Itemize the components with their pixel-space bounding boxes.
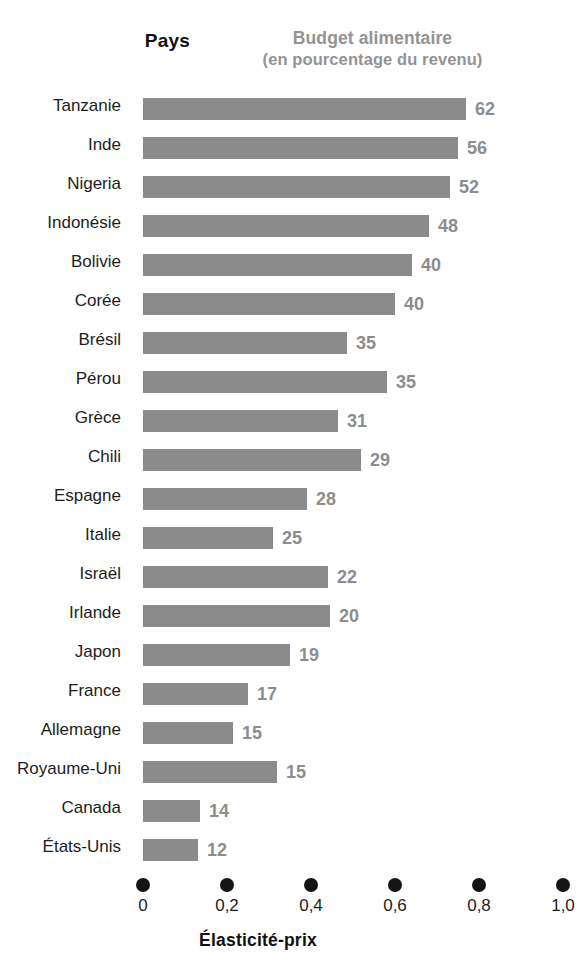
bar-value-label: 15 [277,761,306,783]
bar-value-label: 19 [290,644,319,666]
bar-track: 20 [143,605,563,627]
column-header-pays: Pays [20,30,190,52]
bar-row: Italie25 [0,522,588,561]
bar-value-label: 20 [330,605,359,627]
column-header-budget: Budget alimentaire (en pourcentage du re… [200,28,545,70]
bar-row: Irlande20 [0,600,588,639]
bar [143,644,290,666]
country-label: Grèce [0,405,132,431]
bar-row: Canada14 [0,795,588,834]
bar [143,293,395,315]
country-label: Indonésie [0,210,132,236]
axis-tick-label: 0,8 [453,896,505,916]
country-label: Nigeria [0,171,132,197]
column-header-budget-line1: Budget alimentaire [293,28,452,48]
chart-header: Pays Budget alimentaire (en pourcentage … [0,24,588,86]
bar-track: 29 [143,449,563,471]
column-header-budget-line2: (en pourcentage du revenu) [200,49,545,70]
bar-value-label: 15 [233,722,262,744]
bar-row: Espagne28 [0,483,588,522]
bar-row: États-Unis12 [0,834,588,873]
bar-track: 35 [143,371,563,393]
bar-track: 48 [143,215,563,237]
bar-track: 62 [143,98,563,120]
bar-row: Corée40 [0,288,588,327]
bar-track: 12 [143,839,563,861]
bar-row: Brésil35 [0,327,588,366]
bar-track: 56 [143,137,563,159]
bar [143,488,307,510]
axis-tick-dot-icon [388,878,402,892]
bar-track: 28 [143,488,563,510]
bar-value-label: 25 [273,527,302,549]
bar-value-label: 28 [307,488,336,510]
bar-track: 31 [143,410,563,432]
bar-value-label: 29 [361,449,390,471]
bar-value-label: 14 [200,800,229,822]
country-label: Brésil [0,327,132,353]
bar-value-label: 31 [338,410,367,432]
bar-row: Allemagne15 [0,717,588,756]
bar-value-label: 35 [347,332,376,354]
country-label: Bolivie [0,249,132,275]
country-label: Chili [0,444,132,470]
bar [143,332,347,354]
bar [143,683,248,705]
bar [143,605,330,627]
x-axis: 00,20,40,60,81,0 Élasticité-prix [0,878,588,968]
country-label: Royaume-Uni [0,756,132,782]
bar [143,449,361,471]
bar-value-label: 56 [458,137,487,159]
axis-tick-label: 1,0 [537,896,588,916]
bar-track: 22 [143,566,563,588]
bar-track: 52 [143,176,563,198]
axis-tick-dot-icon [220,878,234,892]
bar [143,98,466,120]
bar-row: Nigeria52 [0,171,588,210]
bar-row: Chili29 [0,444,588,483]
country-label: Italie [0,522,132,548]
axis-tick-label: 0,6 [369,896,421,916]
bar [143,566,328,588]
food-budget-price-elasticity-chart: Pays Budget alimentaire (en pourcentage … [0,0,588,968]
country-label: Tanzanie [0,93,132,119]
bar-track: 40 [143,293,563,315]
bar [143,137,458,159]
axis-tick-dot-icon [304,878,318,892]
bar [143,371,387,393]
bar [143,254,412,276]
country-label: États-Unis [0,834,132,860]
bar-row: Royaume-Uni15 [0,756,588,795]
bar-row: Grèce31 [0,405,588,444]
x-axis-title: Élasticité-prix [143,930,373,951]
axis-tick-dot-icon [136,878,150,892]
axis-tick-dot-icon [556,878,570,892]
bar-value-label: 40 [395,293,424,315]
bar-value-label: 22 [328,566,357,588]
bar-value-label: 52 [450,176,479,198]
bar-row: Indonésie48 [0,210,588,249]
axis-tick-label: 0,4 [285,896,337,916]
bar-value-label: 62 [466,98,495,120]
bar [143,800,200,822]
bar-track: 19 [143,644,563,666]
country-label: Irlande [0,600,132,626]
country-label: Corée [0,288,132,314]
country-label: Allemagne [0,717,132,743]
bar-track: 15 [143,761,563,783]
country-label: France [0,678,132,704]
bar-row: Bolivie40 [0,249,588,288]
axis-tick-label: 0 [117,896,169,916]
country-label: Canada [0,795,132,821]
bar-row: Tanzanie62 [0,93,588,132]
country-label: Inde [0,132,132,158]
bar-row: Pérou35 [0,366,588,405]
bar-row: Japon19 [0,639,588,678]
bar [143,761,277,783]
axis-tick-label: 0,2 [201,896,253,916]
x-axis-ticks: 00,20,40,60,81,0 [143,878,563,938]
bar-track: 40 [143,254,563,276]
bar-row: Israël22 [0,561,588,600]
bar-value-label: 48 [429,215,458,237]
country-label: Japon [0,639,132,665]
